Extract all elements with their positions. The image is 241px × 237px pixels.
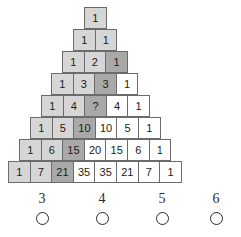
triangle-row: 1331 xyxy=(52,74,138,96)
answer-options: 3456 xyxy=(0,190,241,237)
triangle-cell: 1 xyxy=(51,73,74,95)
triangle-cell: 6 xyxy=(41,139,64,161)
triangle-cell: 21 xyxy=(51,161,74,183)
triangle-cell: 1 xyxy=(84,7,107,29)
pascals-triangle: 111121133114?411510105116152015611721353… xyxy=(0,0,241,190)
triangle-cell: 20 xyxy=(84,139,107,161)
triangle-row: 172135352171 xyxy=(9,162,182,184)
triangle-cell: 5 xyxy=(116,117,139,139)
triangle-row: 11 xyxy=(74,30,117,52)
triangle-cell: 15 xyxy=(62,139,85,161)
triangle-cell: 4 xyxy=(63,95,86,117)
radio-button-icon[interactable] xyxy=(96,212,109,225)
triangle-row: 15101051 xyxy=(31,118,161,140)
radio-button-icon[interactable] xyxy=(210,212,223,225)
triangle-cell: 1 xyxy=(105,51,128,73)
triangle-cell: 1 xyxy=(30,117,53,139)
triangle-row: 1615201561 xyxy=(20,140,171,162)
answer-option-6[interactable]: 6 xyxy=(196,190,236,225)
triangle-cell: 1 xyxy=(95,29,118,51)
answer-option-label: 4 xyxy=(82,190,122,208)
triangle-cell: 1 xyxy=(73,29,96,51)
answer-option-4[interactable]: 4 xyxy=(82,190,122,225)
triangle-row: 14?41 xyxy=(42,96,150,118)
triangle-cell: 1 xyxy=(19,139,42,161)
triangle-cell: 1 xyxy=(159,161,182,183)
triangle-row: 1 xyxy=(85,8,107,30)
answer-option-3[interactable]: 3 xyxy=(22,190,62,225)
triangle-cell: 1 xyxy=(116,73,139,95)
triangle-cell: 1 xyxy=(149,139,172,161)
triangle-cell: 5 xyxy=(52,117,75,139)
triangle-cell: 1 xyxy=(138,117,161,139)
triangle-cell: 4 xyxy=(106,95,129,117)
triangle-cell: 1 xyxy=(127,95,150,117)
triangle-cell: 3 xyxy=(73,73,96,95)
triangle-cell: 7 xyxy=(30,161,53,183)
triangle-cell: 15 xyxy=(105,139,128,161)
triangle-cell: 6 xyxy=(127,139,150,161)
answer-option-label: 3 xyxy=(22,190,62,208)
triangle-cell: 10 xyxy=(95,117,118,139)
triangle-cell: 1 xyxy=(62,51,85,73)
triangle-cell: 3 xyxy=(94,73,117,95)
answer-option-label: 6 xyxy=(196,190,236,208)
triangle-cell: 7 xyxy=(138,161,161,183)
triangle-cell: 35 xyxy=(73,161,96,183)
triangle-cell: 10 xyxy=(73,117,96,139)
triangle-cell: 2 xyxy=(84,51,107,73)
radio-button-icon[interactable] xyxy=(36,212,49,225)
triangle-cell: 1 xyxy=(41,95,64,117)
answer-option-label: 5 xyxy=(142,190,182,208)
triangle-cell: 35 xyxy=(94,161,117,183)
triangle-cell: 1 xyxy=(8,161,31,183)
unknown-cell[interactable]: ? xyxy=(84,95,107,117)
triangle-cell: 21 xyxy=(116,161,139,183)
radio-button-icon[interactable] xyxy=(156,212,169,225)
triangle-row: 121 xyxy=(63,52,128,74)
answer-option-5[interactable]: 5 xyxy=(142,190,182,225)
